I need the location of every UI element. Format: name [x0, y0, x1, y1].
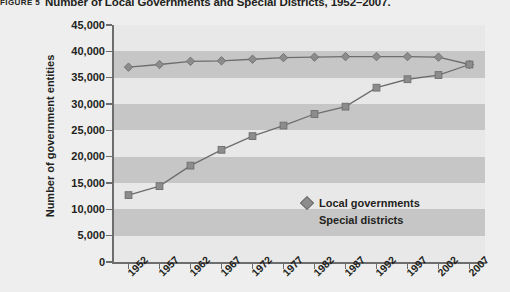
figure-title: FIGURE 5Number of Local Governments and … [0, 0, 510, 10]
figure-title-text: Number of Local Governments and Special … [45, 0, 390, 8]
diamond-marker-icon [300, 196, 314, 210]
series-line-local-governments [129, 57, 470, 68]
series-line-special-districts [129, 65, 470, 196]
chart-container: 05,00010,00015,00020,00025,00030,00035,0… [0, 12, 510, 292]
legend-item-special-districts: Special districts [300, 211, 420, 228]
square-marker-icon [156, 183, 163, 190]
square-marker-icon [125, 192, 132, 199]
diamond-marker-icon [217, 57, 225, 65]
diamond-marker-icon [341, 52, 349, 60]
legend-label-local-governments: Local governments [319, 197, 420, 209]
square-marker-icon [466, 61, 473, 68]
square-marker-icon [311, 111, 318, 118]
legend-item-local-governments: Local governments [300, 194, 420, 211]
square-marker-icon [435, 72, 442, 79]
series-layer [0, 12, 510, 292]
square-marker-icon [404, 76, 411, 83]
square-marker-icon [218, 146, 225, 153]
diamond-marker-icon [155, 60, 163, 68]
diamond-marker-icon [248, 55, 256, 63]
blank-marker-icon [300, 213, 314, 227]
diamond-marker-icon [124, 63, 132, 71]
diamond-marker-icon [434, 53, 442, 61]
diamond-marker-icon [403, 52, 411, 60]
diamond-marker-icon [372, 52, 380, 60]
square-marker-icon [280, 122, 287, 129]
square-marker-icon [187, 162, 194, 169]
square-marker-icon [373, 84, 380, 91]
diamond-marker-icon [310, 53, 318, 61]
diamond-marker-icon [279, 53, 287, 61]
diamond-marker-icon [186, 57, 194, 65]
figure-number-label: FIGURE 5 [0, 0, 40, 7]
square-marker-icon [342, 103, 349, 110]
legend-label-special-districts: Special districts [319, 214, 403, 226]
chart-legend: Local governments Special districts [300, 194, 420, 228]
square-marker-icon [249, 133, 256, 140]
